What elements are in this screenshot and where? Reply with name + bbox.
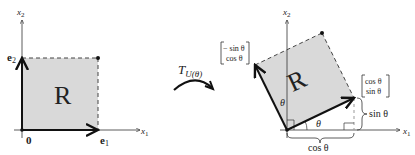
brace-vertical [357, 98, 367, 130]
curved-arrow-icon [174, 80, 212, 90]
x2-axis-label-right: x2 [282, 7, 291, 19]
matrix-e2-bottom: cos θ [226, 54, 243, 63]
right-angle-mark-drop [344, 123, 354, 130]
angle-label-vertical: θ [280, 97, 285, 108]
cos-theta-brace-label: cos θ [308, 142, 329, 153]
transform-label: TU(θ) [178, 62, 202, 79]
matrix-e1-top: cos θ [365, 77, 382, 86]
origin-dot-right [285, 128, 289, 132]
x1-axis-label-right: x1 [402, 126, 411, 138]
region-label-left: R [54, 81, 72, 110]
e2-label: e2 [7, 51, 16, 65]
diagram-canvas: R 0 e1 e2 x2 x1 TU(θ) R θ θ sin θ [0, 0, 415, 155]
e1-label: e1 [100, 134, 109, 148]
matrix-image-e1: cos θ sin θ [362, 75, 389, 97]
left-figure: R 0 e1 e2 x2 x1 [7, 7, 149, 148]
sin-theta-brace-label: sin θ [369, 108, 388, 119]
corner-dot-right [320, 31, 324, 35]
matrix-e1-bottom: sin θ [366, 87, 381, 96]
corner-dot-left [96, 56, 100, 60]
origin-dot-left [20, 128, 24, 132]
matrix-e2-top: − sin θ [223, 44, 245, 53]
angle-label-horizontal: θ [316, 118, 321, 129]
origin-label: 0 [26, 134, 32, 146]
matrix-image-e2: − sin θ cos θ [221, 42, 249, 64]
x2-axis-label-left: x2 [16, 7, 25, 19]
x1-axis-label-left: x1 [140, 126, 149, 138]
transform-arrow: TU(θ) [174, 62, 213, 90]
right-figure: R θ θ sin θ cos θ − sin θ cos θ cos θ si… [221, 7, 411, 153]
